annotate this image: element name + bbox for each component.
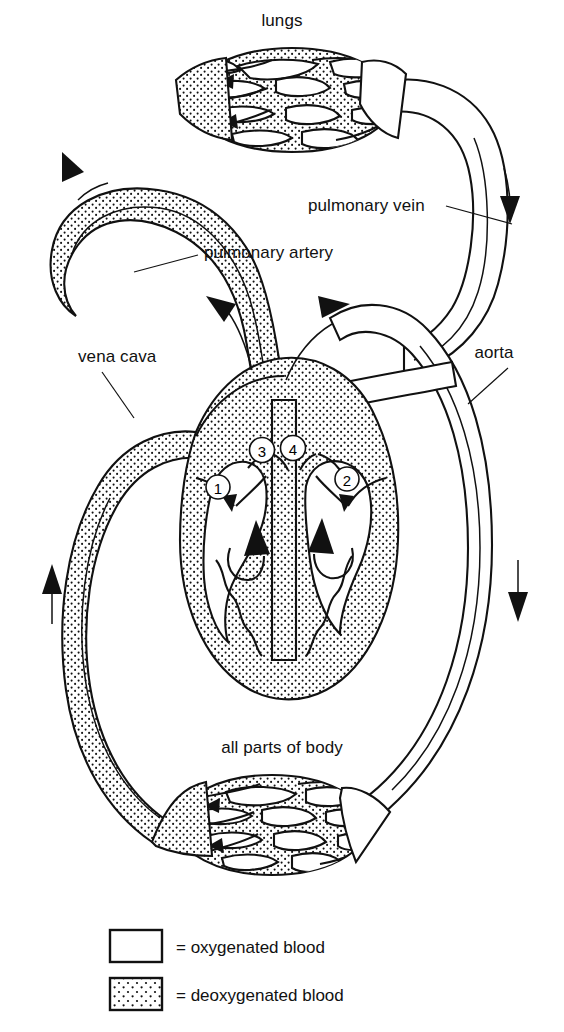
heart <box>180 358 398 700</box>
valve-marker-1-label: 1 <box>214 480 222 497</box>
valve-marker-4: 4 <box>281 436 306 461</box>
legend-swatch-oxygenated <box>110 930 162 962</box>
pulmonary-artery-loop-arrow <box>62 152 108 200</box>
valve-marker-2: 2 <box>335 467 359 491</box>
valve-marker-3: 3 <box>250 438 275 463</box>
label-pulmonary-artery: pulmonary artery <box>204 243 334 262</box>
legend-item-deoxygenated: = deoxygenated blood <box>110 978 344 1010</box>
label-pulmonary-vein: pulmonary vein <box>308 196 425 215</box>
leader-vena-cava <box>102 372 134 418</box>
diagram-canvas: 1 2 3 4 <box>0 0 564 1032</box>
label-aorta: aorta <box>474 343 514 362</box>
pa-lung-junction <box>176 58 232 140</box>
circulatory-system-diagram: 1 2 3 4 <box>0 0 564 1032</box>
legend-label-oxygenated: = oxygenated blood <box>176 938 325 957</box>
aorta-descending-flow-arrow <box>508 560 528 622</box>
legend: = oxygenated blood = deoxygenated blood <box>110 930 344 1010</box>
label-vena-cava: vena cava <box>78 347 157 366</box>
valve-marker-1: 1 <box>206 475 230 499</box>
leader-aorta <box>468 368 508 404</box>
legend-label-deoxygenated: = deoxygenated blood <box>176 986 344 1005</box>
vena-cava-flow-arrow <box>42 564 62 624</box>
valve-marker-4-label: 4 <box>289 441 297 458</box>
vena-cava-vessel <box>62 431 198 842</box>
legend-item-oxygenated: = oxygenated blood <box>110 930 325 962</box>
leader-pulmonary-artery <box>134 255 198 272</box>
legend-swatch-deoxygenated <box>110 978 162 1010</box>
valve-marker-2-label: 2 <box>343 472 351 489</box>
valve-marker-3-label: 3 <box>258 443 266 460</box>
label-lungs: lungs <box>261 11 302 30</box>
label-all-parts-of-body: all parts of body <box>221 738 343 757</box>
